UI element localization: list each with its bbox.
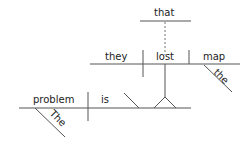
word-that: that (154, 7, 174, 18)
word-lost: lost (156, 51, 174, 62)
complement-slant-line (124, 93, 139, 108)
word-map: map (203, 51, 225, 62)
word-they: they (105, 51, 127, 62)
sentence-diagram: that they lost map the problem is The (0, 0, 252, 146)
word-the: the (212, 67, 231, 86)
pedestal (154, 97, 176, 108)
word-problem: problem (33, 94, 74, 105)
word-The: The (47, 107, 69, 129)
word-is: is (101, 94, 109, 105)
